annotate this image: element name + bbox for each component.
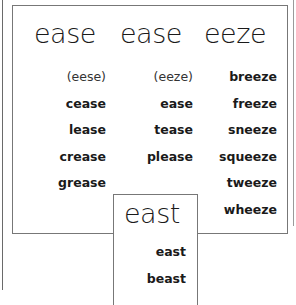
column-header-eeze: eeze — [204, 20, 266, 47]
word: sneeze — [219, 117, 277, 144]
word: breeze — [219, 64, 277, 91]
word-column-1: (eese) cease lease crease grease — [58, 64, 106, 197]
word-column-3: breeze freeze sneeze squeeze tweeze whee… — [219, 64, 277, 223]
word: please — [147, 144, 193, 171]
page-border-left — [2, 0, 3, 290]
word: squeeze — [219, 144, 277, 171]
spelling-hint: (eese) — [58, 64, 106, 91]
word: tweeze — [219, 170, 277, 197]
page-border-right — [293, 0, 294, 226]
word: beast — [147, 266, 186, 293]
east-header: east — [124, 200, 180, 227]
column-header-ease-2: ease — [120, 20, 182, 47]
word: lease — [58, 117, 106, 144]
word: ease — [147, 91, 193, 118]
word-column-2: (eeze) ease tease please — [147, 64, 193, 170]
word: crease — [58, 144, 106, 171]
column-header-ease-1: ease — [34, 20, 96, 47]
word: cease — [58, 91, 106, 118]
word: tease — [147, 117, 193, 144]
east-word-column: east beast — [147, 239, 186, 292]
word: wheeze — [219, 197, 277, 224]
word: freeze — [219, 91, 277, 118]
spelling-hint: (eeze) — [147, 64, 193, 91]
word: east — [147, 239, 186, 266]
word: grease — [58, 170, 106, 197]
